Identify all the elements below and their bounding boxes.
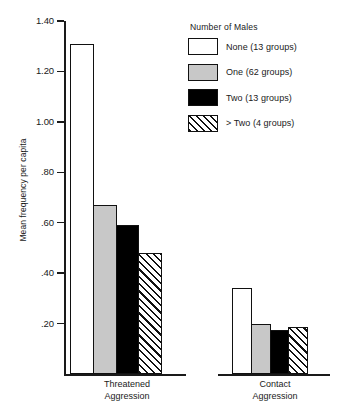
- group-label-line2: Aggression: [72, 391, 182, 403]
- y-axis-line: [64, 21, 66, 375]
- group-label-line2: Aggression: [220, 391, 330, 403]
- legend-swatch-gray: [188, 64, 218, 81]
- legend-item: Two (13 groups): [188, 89, 340, 106]
- group-label-line1: Threatened: [72, 379, 182, 391]
- legend-label: None (13 groups): [226, 42, 297, 52]
- y-axis-tick-label: 1.40: [14, 15, 54, 26]
- group-label-contact-aggression: Contact Aggression: [220, 379, 330, 402]
- legend: Number of Males None (13 groups)One (62 …: [188, 22, 340, 140]
- bar-none-threatened: [70, 44, 94, 374]
- group-label-threatened-aggression: Threatened Aggression: [72, 379, 182, 402]
- bar-one-contact: [251, 324, 271, 374]
- y-axis-tick-label: .20: [14, 318, 54, 329]
- legend-label: > Two (4 groups): [226, 118, 294, 128]
- legend-swatch-black: [188, 89, 218, 106]
- y-axis-tick-label: .60: [14, 217, 54, 228]
- legend-item: None (13 groups): [188, 38, 340, 55]
- bar-two-threatened: [115, 225, 139, 374]
- group-label-line1: Contact: [220, 379, 330, 391]
- legend-item: One (62 groups): [188, 64, 340, 81]
- bar-one-threatened: [93, 205, 117, 374]
- legend-swatch-hatch: [188, 115, 218, 132]
- y-axis-tick: [57, 20, 64, 21]
- y-axis-tick: [57, 323, 64, 324]
- bar-chart-figure: Mean frequency per capita 1.401.201.00.8…: [0, 0, 342, 411]
- y-axis-tick: [57, 222, 64, 223]
- legend-title: Number of Males: [190, 22, 340, 32]
- bar-two-contact: [269, 330, 289, 374]
- y-axis-tick-label: 1.00: [14, 116, 54, 127]
- baseline-threatened-aggression: [64, 374, 186, 376]
- bar-more_two-threatened: [138, 253, 162, 374]
- bar-more_two-contact: [288, 327, 308, 374]
- legend-item: > Two (4 groups): [188, 115, 340, 132]
- y-axis-tick-label: 1.20: [14, 65, 54, 76]
- legend-swatch-white: [188, 38, 218, 55]
- legend-label: Two (13 groups): [226, 93, 292, 103]
- y-axis-title: Mean frequency per capita: [18, 120, 28, 260]
- y-axis-tick-label: .80: [14, 166, 54, 177]
- y-axis-tick-label: .40: [14, 267, 54, 278]
- y-axis-tick: [57, 172, 64, 173]
- bar-none-contact: [232, 288, 252, 374]
- legend-label: One (62 groups): [226, 67, 292, 77]
- legend-items: None (13 groups)One (62 groups)Two (13 g…: [188, 38, 340, 132]
- y-axis-tick: [57, 121, 64, 122]
- y-axis-tick: [57, 272, 64, 273]
- baseline-contact-aggression: [218, 374, 330, 376]
- y-axis-tick: [57, 71, 64, 72]
